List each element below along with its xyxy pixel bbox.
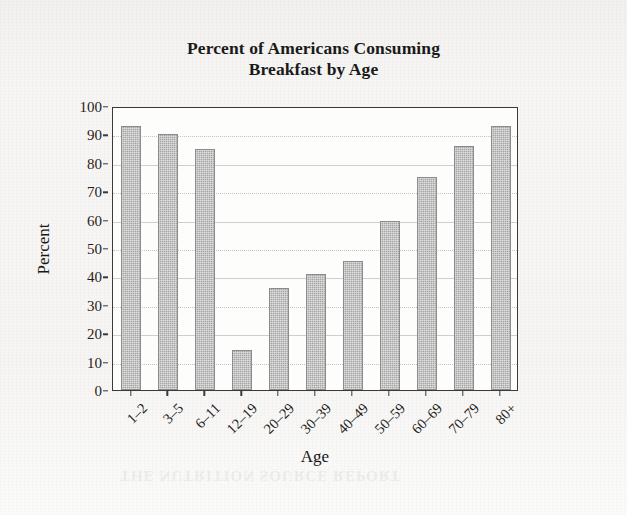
plot-area [112,107,518,391]
y-tick-mark [103,362,108,363]
y-tick-label: 0 [95,383,103,400]
y-tick-label: 40 [87,269,102,286]
y-tick-label: 10 [87,354,102,371]
x-axis-label: Age [112,447,518,467]
x-axis-ticks: 1–23–56–1112–1920–2930–3940–4950–5960–69… [112,391,518,451]
x-tick-label: 1–2 [123,400,150,427]
chart-title-line-1: Percent of Americans Consuming [187,38,440,58]
y-axis-ticks: 0102030405060708090100 [62,107,108,391]
y-tick-mark [103,163,108,164]
y-tick-mark [103,305,108,306]
bar [121,126,141,390]
bar-chart-figure: Percent of Americans Consuming Breakfast… [0,0,627,515]
y-tick-mark [103,390,108,391]
y-tick-mark [103,135,108,136]
x-tick-mark [240,391,241,396]
x-tick-mark [425,391,426,396]
y-tick-label: 60 [87,212,102,229]
y-tick-mark [103,333,108,334]
scan-bleed-text: THE NUTRITION SOURCE REPORT [120,466,520,484]
y-tick-label: 30 [87,297,102,314]
bar [380,221,400,390]
x-tick-mark [314,391,315,396]
x-tick-mark [388,391,389,396]
y-tick-mark [103,106,108,107]
x-tick-label: 70–79 [445,400,483,438]
bar [158,134,178,390]
x-tick-mark [499,391,500,396]
x-tick-label: 20–29 [260,400,298,438]
y-tick-label: 70 [87,184,102,201]
x-tick-mark [167,391,168,396]
y-tick-mark [103,248,108,249]
x-tick-label: 30–39 [297,400,335,438]
y-tick-label: 20 [87,326,102,343]
y-tick-mark [103,277,108,278]
bar [195,149,215,390]
bar [232,350,252,390]
x-tick-mark [204,391,205,396]
x-tick-mark [351,391,352,396]
y-axis-label: Percent [34,224,54,275]
bar [269,288,289,390]
bar [417,177,437,390]
y-tick-mark [103,191,108,192]
bar [343,261,363,390]
bar-series [113,108,517,390]
x-tick-mark [462,391,463,396]
x-tick-mark [130,391,131,396]
x-tick-label: 50–59 [371,400,409,438]
y-tick-label: 80 [87,155,102,172]
x-tick-label: 60–69 [408,400,446,438]
x-tick-label: 12–19 [224,400,262,438]
bar [491,126,511,390]
y-tick-mark [103,220,108,221]
bar [454,146,474,390]
y-tick-label: 50 [87,241,102,258]
bar [306,274,326,390]
x-tick-label: 80+ [491,400,519,428]
x-tick-label: 3–5 [160,400,187,427]
x-tick-label: 40–49 [334,400,372,438]
y-tick-label: 100 [80,99,103,116]
chart-title: Percent of Americans Consuming Breakfast… [0,38,627,80]
chart-title-line-2: Breakfast by Age [0,59,627,80]
y-tick-label: 90 [87,127,102,144]
x-tick-label: 6–11 [192,400,224,432]
x-tick-mark [277,391,278,396]
